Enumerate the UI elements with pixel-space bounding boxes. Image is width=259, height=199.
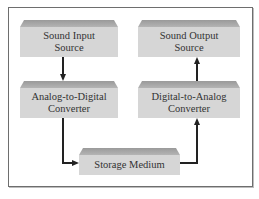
sound-input-source-box: Sound InputSource <box>20 20 118 57</box>
sound-output-source-box: Sound OutputSource <box>138 20 240 57</box>
box-face: Storage Medium <box>79 155 180 175</box>
node-label: Source <box>174 42 203 53</box>
box-bevel <box>20 20 118 27</box>
node-label: Converter <box>168 103 210 114</box>
box-face: Digital-to-AnalogConverter <box>138 88 240 118</box>
box-face: Sound InputSource <box>20 27 118 57</box>
box-face: Sound OutputSource <box>138 27 240 57</box>
node-label: Analog-to-Digital <box>31 91 106 102</box>
arrow-shaft-dac-to-output <box>196 64 198 81</box>
node-label: Sound Output <box>160 30 219 41</box>
node-label: Digital-to-Analog <box>151 91 226 102</box>
arrow-down-icon <box>60 74 66 81</box>
box-face: Analog-to-DigitalConverter <box>20 88 118 118</box>
arrow-right-icon <box>72 160 79 166</box>
box-bevel <box>138 20 240 27</box>
arrow-shaft-adc-right <box>62 162 72 164</box>
arrow-up-icon <box>194 57 200 64</box>
dac-box: Digital-to-AnalogConverter <box>138 81 240 118</box>
node-label: Sound Input <box>43 30 95 41</box>
node-label: Converter <box>48 103 90 114</box>
node-label: Source <box>54 42 83 53</box>
adc-box: Analog-to-DigitalConverter <box>20 81 118 118</box>
storage-medium-box: Storage Medium <box>79 148 180 175</box>
box-bevel <box>20 81 118 88</box>
arrow-up-icon <box>194 118 200 125</box>
box-bevel <box>138 81 240 88</box>
node-label: Storage Medium <box>94 159 164 171</box>
arrow-shaft-input-to-adc <box>62 57 64 74</box>
box-bevel <box>79 148 180 155</box>
arrow-shaft-adc-down <box>62 118 64 163</box>
arrow-shaft-dac-up <box>196 125 198 164</box>
